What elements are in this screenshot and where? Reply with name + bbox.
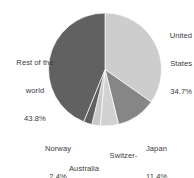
pie-label-norway-value: 2.4%: [37, 172, 79, 178]
pie-label-norway: Norway 2.4%: [37, 126, 79, 178]
pie-label-united-states-line1: United: [170, 31, 192, 40]
pie-label-japan: Japan 11.4%: [146, 126, 167, 178]
pie-label-rest-of-world-line2: world: [3, 86, 67, 95]
pie-label-norway-line1: Norway: [37, 144, 79, 153]
pie-label-united-states-value: 34.7%: [170, 87, 192, 96]
pie-label-japan-line1: Japan: [146, 144, 167, 153]
pie-label-switzerland: Switzer- land 5.2%: [106, 133, 141, 178]
pie-label-switzerland-line1: Switzer-: [106, 151, 141, 160]
pie-label-rest-of-world-value: 43.8%: [3, 114, 67, 123]
pie-label-united-states: United States 34.7%: [170, 13, 192, 114]
pie-label-united-states-line2: States: [170, 59, 192, 68]
pie-chart-figure: United States 34.7% Rest of the world 43…: [0, 0, 194, 178]
pie-label-japan-value: 11.4%: [146, 172, 167, 178]
pie-label-rest-of-world-line1: Rest of the: [3, 58, 67, 67]
